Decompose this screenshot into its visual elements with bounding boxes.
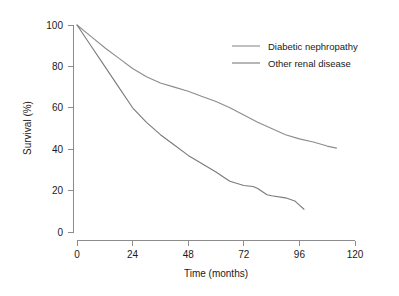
x-tick-label: 24: [127, 249, 139, 260]
plot-area: 020406080100 024487296120 Diabetic nephr…: [0, 0, 399, 296]
legend-label-1: Diabetic nephropathy: [268, 41, 358, 52]
survival-chart: 020406080100 024487296120 Diabetic nephr…: [0, 0, 399, 296]
y-tick-label: 100: [46, 20, 63, 31]
chart-legend: Diabetic nephropathyOther renal disease: [232, 41, 358, 69]
legend-label-2: Other renal disease: [268, 58, 351, 69]
x-tick-label: 120: [347, 249, 364, 260]
series-group: [77, 25, 336, 209]
x-tick-group: 024487296120: [74, 241, 364, 261]
y-tick-label: 80: [52, 61, 64, 72]
x-tick-label: 72: [238, 249, 250, 260]
y-tick-group: 020406080100: [46, 20, 73, 238]
y-axis: 020406080100: [46, 20, 73, 238]
y-tick-label: 0: [57, 227, 63, 238]
x-axis: 024487296120: [74, 241, 364, 261]
y-tick-label: 20: [52, 185, 64, 196]
x-tick-label: 0: [74, 249, 80, 260]
x-tick-label: 48: [183, 249, 195, 260]
x-axis-title: Time (months): [184, 268, 248, 279]
x-tick-label: 96: [294, 249, 306, 260]
y-tick-label: 60: [52, 102, 64, 113]
y-tick-label: 40: [52, 144, 64, 155]
y-axis-title: Survival (%): [22, 101, 33, 155]
